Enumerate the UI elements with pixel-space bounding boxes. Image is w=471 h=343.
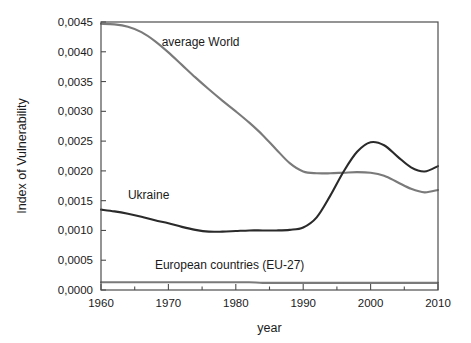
chart-canvas: 0,00000,00050,00100,00150,00200,00250,00… [0,0,471,343]
y-tick-label: 0,0000 [58,284,93,296]
series-label-1: Ukraine [128,188,170,202]
y-tick-label: 0,0030 [58,105,93,117]
y-tick-label: 0,0025 [58,135,93,147]
y-tick-label: 0,0035 [58,76,93,88]
x-tick-label: 1960 [88,297,114,309]
series-line-2 [101,282,438,283]
series-label-2: European countries (EU-27) [155,258,304,272]
y-tick-label: 0,0045 [58,16,93,28]
y-axis-title: Index of Vulnerability [15,97,29,213]
vulnerability-index-chart: 0,00000,00050,00100,00150,00200,00250,00… [0,0,471,343]
y-tick-label: 0,0020 [58,165,93,177]
y-tick-label: 0,0015 [58,195,93,207]
y-tick-label: 0,0010 [58,224,93,236]
x-axis-title: year [257,321,281,335]
x-tick-label: 1970 [156,297,182,309]
x-tick-label: 1990 [290,297,316,309]
series-label-0: average World [162,35,240,49]
x-tick-label: 1980 [223,297,249,309]
y-tick-label: 0,0005 [58,254,93,266]
y-tick-label: 0,0040 [58,46,93,58]
x-tick-label: 2010 [425,297,451,309]
x-tick-label: 2000 [358,297,384,309]
